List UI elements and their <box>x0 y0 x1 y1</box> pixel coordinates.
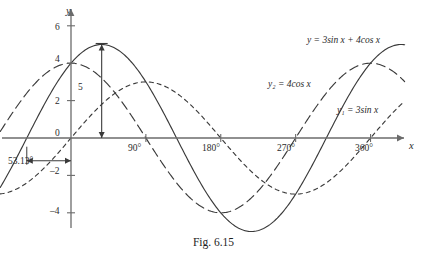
curve-label-y1: y₁ = 3sin x <box>337 106 378 116</box>
annotation-group <box>27 44 108 165</box>
y-axis-label: y <box>66 6 71 17</box>
y-tick-4: 4 <box>55 55 60 65</box>
x-tick-360: 360° <box>355 144 373 154</box>
y-tick-0: 0 <box>55 129 60 139</box>
amplitude-arrow-head-top <box>99 45 105 51</box>
y-tick-minus-2: –2 <box>50 167 60 177</box>
y-tick-minus-4: –4 <box>50 207 60 217</box>
figure-caption: Fig. 6.15 <box>0 236 427 248</box>
amplitude-annotation: 5 <box>78 83 83 93</box>
x-tick-90: 90° <box>128 144 141 154</box>
x-tick-270: 270° <box>277 144 295 154</box>
x-tick-180: 180° <box>202 144 220 154</box>
phase-shift-annotation: 53.13° <box>8 157 33 167</box>
figure-container: y x 6 4 2 0 –2 –4 90° 180° 270° 360° y =… <box>0 0 427 268</box>
phase-shift-arrow-head-right <box>65 158 71 164</box>
curve-label-y2: y₂ = 4cos x <box>268 80 311 90</box>
y-tick-2: 2 <box>55 97 60 107</box>
x-axis-arrow <box>397 135 404 142</box>
y-tick-6: 6 <box>55 23 60 33</box>
curve-label-resultant: y = 3sin x + 4cos x <box>307 36 380 46</box>
amplitude-arrow-head-bottom <box>99 132 105 138</box>
x-axis-label: x <box>409 141 414 152</box>
